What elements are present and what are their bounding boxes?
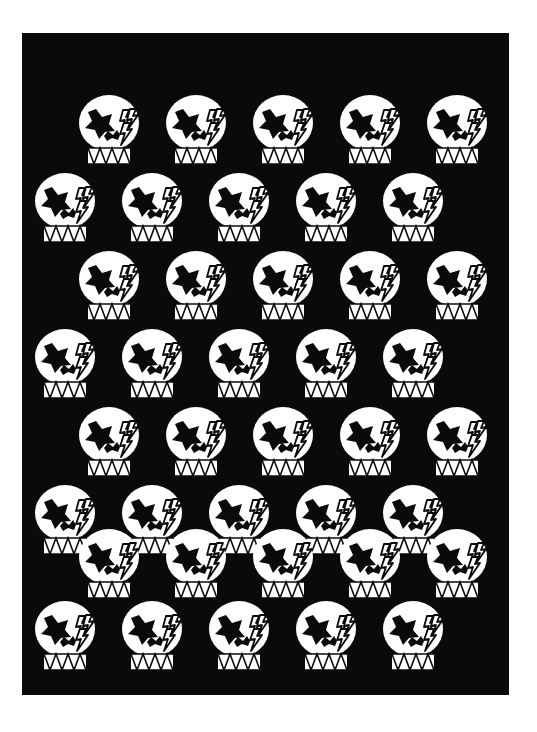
skull-motif-r3-c3 bbox=[248, 249, 322, 327]
skull-motif-r5-c3 bbox=[248, 405, 322, 483]
skull-motif-r4-c3 bbox=[204, 327, 278, 405]
skull-motif-r8-c3 bbox=[204, 599, 278, 677]
skull-motif-r1-c1 bbox=[74, 93, 148, 171]
skull-motif-r4-c1 bbox=[30, 327, 104, 405]
skull-motif-r7-c5 bbox=[422, 527, 496, 605]
skull-motif-r3-c2 bbox=[161, 249, 235, 327]
skull-motif-r2-c2 bbox=[117, 171, 191, 249]
skull-motif-r1-c3 bbox=[248, 93, 322, 171]
pattern-panel bbox=[22, 33, 509, 695]
skull-motif-r5-c1 bbox=[74, 405, 148, 483]
skull-motif-r2-c1 bbox=[30, 171, 104, 249]
skull-motif-r4-c5 bbox=[378, 327, 452, 405]
skull-motif-r5-c5 bbox=[422, 405, 496, 483]
skull-motif-r4-c2 bbox=[117, 327, 191, 405]
skull-motif-r2-c4 bbox=[291, 171, 365, 249]
skull-motif-r8-c4 bbox=[291, 599, 365, 677]
skull-motif-r3-c5 bbox=[422, 249, 496, 327]
skull-motif-r7-c2 bbox=[161, 527, 235, 605]
skull-motif-r2-c3 bbox=[204, 171, 278, 249]
skull-motif-r8-c5 bbox=[378, 599, 452, 677]
skull-motif-r5-c4 bbox=[335, 405, 409, 483]
skull-motif-r1-c5 bbox=[422, 93, 496, 171]
skull-motif-r5-c2 bbox=[161, 405, 235, 483]
skull-motif-r2-c5 bbox=[378, 171, 452, 249]
artboard bbox=[0, 0, 537, 732]
skull-motif-r3-c4 bbox=[335, 249, 409, 327]
skull-motif-r1-c4 bbox=[335, 93, 409, 171]
skull-motif-r4-c4 bbox=[291, 327, 365, 405]
skull-motif-r8-c1 bbox=[30, 599, 104, 677]
skull-motif-r7-c3 bbox=[248, 527, 322, 605]
skull-motif-r1-c2 bbox=[161, 93, 235, 171]
skull-motif-r7-c4 bbox=[335, 527, 409, 605]
skull-motif-r3-c1 bbox=[74, 249, 148, 327]
skull-motif-r8-c2 bbox=[117, 599, 191, 677]
skull-motif-r7-c1 bbox=[74, 527, 148, 605]
